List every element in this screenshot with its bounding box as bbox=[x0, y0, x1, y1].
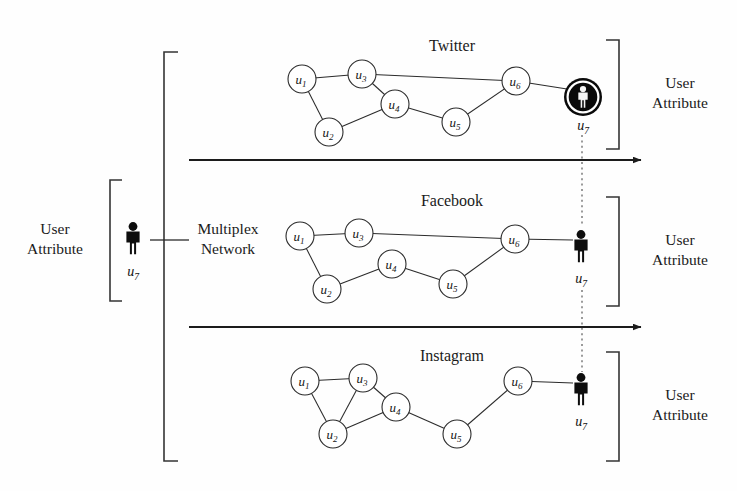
layer-twitter: u1u2u3u4u5u6Twitter bbox=[288, 37, 567, 146]
edge-twitter-u3-u6 bbox=[362, 74, 516, 81]
right-user-attribute-bracket-twitter bbox=[606, 40, 619, 149]
node-twitter-u1[interactable]: u1 bbox=[288, 65, 316, 93]
right-user-attribute-label-facebook: UserAttribute bbox=[652, 231, 708, 268]
node-instagram-u5[interactable]: u5 bbox=[443, 420, 471, 448]
left-person-icon-u7 bbox=[126, 222, 139, 254]
multiplex-network-bracket bbox=[164, 52, 178, 461]
left-user-attribute-label: UserAttribute bbox=[27, 220, 83, 257]
edge-facebook-u3-u6 bbox=[359, 233, 515, 239]
node-instagram-u1[interactable]: u1 bbox=[291, 367, 319, 395]
network-layer-group: u1u2u3u4u5u6Twitteru1u2u3u4u5u6Facebooku… bbox=[286, 37, 573, 448]
node-facebook-u5[interactable]: u5 bbox=[439, 270, 467, 298]
person-icon-facebook-u7 bbox=[574, 230, 587, 262]
node-twitter-u6[interactable]: u6 bbox=[502, 67, 530, 95]
figure-canvas: u1u2u3u4u5u6Twitteru1u2u3u4u5u6Facebooku… bbox=[0, 0, 737, 491]
layer-title-twitter: Twitter bbox=[429, 37, 476, 54]
node-instagram-u2[interactable]: u2 bbox=[319, 420, 347, 448]
node-instagram-u6[interactable]: u6 bbox=[504, 367, 532, 395]
node-facebook-u4[interactable]: u4 bbox=[378, 250, 406, 278]
person-icon-instagram-u7 bbox=[574, 373, 587, 405]
layer-title-facebook: Facebook bbox=[421, 192, 483, 209]
node-facebook-u2[interactable]: u2 bbox=[313, 275, 341, 303]
person-label-instagram-u7: u7 bbox=[575, 414, 588, 432]
node-instagram-u4[interactable]: u4 bbox=[382, 393, 410, 421]
node-facebook-u3[interactable]: u3 bbox=[345, 219, 373, 247]
multiplex-network-label: MultiplexNetwork bbox=[197, 220, 258, 257]
node-facebook-u1[interactable]: u1 bbox=[286, 222, 314, 250]
layer-facebook: u1u2u3u4u5u6Facebook bbox=[286, 192, 573, 303]
node-twitter-u3[interactable]: u3 bbox=[348, 60, 376, 88]
node-facebook-u6[interactable]: u6 bbox=[501, 225, 529, 253]
bracket-group bbox=[110, 40, 619, 461]
multiplex-network-diagram: u1u2u3u4u5u6Twitteru1u2u3u4u5u6Facebooku… bbox=[0, 0, 737, 491]
person-icon-highlighted-twitter-u7 bbox=[564, 78, 602, 116]
person-label-facebook-u7: u7 bbox=[575, 271, 588, 289]
layer-instagram: u1u2u3u4u5u6Instagram bbox=[291, 347, 573, 448]
right-user-attribute-bracket-instagram bbox=[606, 352, 619, 461]
node-twitter-u4[interactable]: u4 bbox=[381, 90, 409, 118]
right-user-attribute-bracket-facebook bbox=[606, 197, 619, 306]
layer-title-instagram: Instagram bbox=[420, 347, 485, 365]
right-user-attribute-label-instagram: UserAttribute bbox=[652, 386, 708, 423]
person-label-twitter-u7: u7 bbox=[577, 118, 590, 136]
node-twitter-u2[interactable]: u2 bbox=[315, 118, 343, 146]
node-twitter-u5[interactable]: u5 bbox=[442, 108, 470, 136]
right-user-attribute-label-twitter: UserAttribute bbox=[652, 74, 708, 111]
node-instagram-u3[interactable]: u3 bbox=[349, 364, 377, 392]
left-person-label-u7: u7 bbox=[127, 264, 140, 282]
left-user-attribute-bracket bbox=[110, 180, 122, 301]
flow-arrow-group bbox=[189, 160, 641, 327]
